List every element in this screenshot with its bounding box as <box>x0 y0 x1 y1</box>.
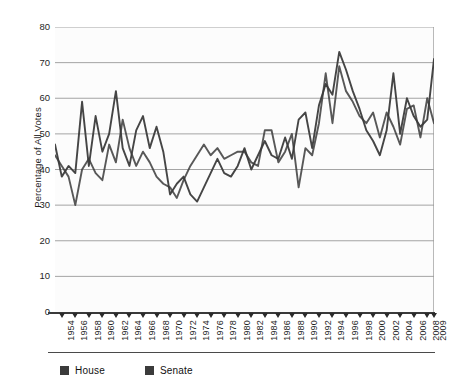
x-tick-mark <box>86 313 92 318</box>
x-tick-label: 1978 <box>228 320 238 341</box>
party-unity-votes-line-chart: Percentage of All Votes 0102030405060708… <box>0 0 455 385</box>
x-tick-mark <box>194 313 200 318</box>
x-tick-mark <box>248 313 254 318</box>
x-tick-label: 1976 <box>215 320 225 341</box>
plot-svg <box>55 27 434 312</box>
y-tick-label: 10 <box>28 272 50 282</box>
x-tick-label: 1972 <box>188 320 198 341</box>
chart-legend: HouseSenate <box>60 360 193 380</box>
legend-swatch-icon <box>145 366 154 375</box>
x-tick-label: 2002 <box>391 320 401 341</box>
x-tick-label: 1998 <box>364 320 374 341</box>
x-tick-label: 1980 <box>242 320 252 341</box>
x-tick-label: 1994 <box>336 320 346 341</box>
y-tick-label: 70 <box>28 58 50 68</box>
x-tick-label: 2000 <box>377 320 387 341</box>
x-tick-label: 1974 <box>201 320 211 341</box>
x-tick-label: 1962 <box>120 320 130 341</box>
legend-label: Senate <box>160 365 193 376</box>
x-tick-mark <box>431 313 437 318</box>
x-tick-label: 1996 <box>350 320 360 341</box>
x-tick-mark <box>126 313 132 318</box>
plot-area <box>55 27 434 312</box>
series-line-senate <box>55 66 434 205</box>
x-tick-mark <box>343 313 349 318</box>
x-tick-label: 1986 <box>282 320 292 341</box>
x-tick-label: 1990 <box>309 320 319 341</box>
x-tick-label: 1988 <box>296 320 306 341</box>
x-tick-label: 1958 <box>93 320 103 341</box>
x-tick-label: 1970 <box>174 320 184 341</box>
x-tick-label: 1954 <box>66 320 76 341</box>
x-tick-label: 1960 <box>106 320 116 341</box>
legend-item-house[interactable]: House <box>60 365 105 376</box>
y-tick-label: 60 <box>28 94 50 104</box>
x-tick-mark <box>289 313 295 318</box>
y-tick-label: 30 <box>28 200 50 210</box>
x-tick-mark <box>59 313 65 318</box>
x-tick-label: 1968 <box>161 320 171 341</box>
x-tick-label: 1992 <box>323 320 333 341</box>
y-tick-label: 40 <box>28 165 50 175</box>
x-tick-label: 2009 <box>438 320 448 341</box>
x-tick-mark <box>275 313 281 318</box>
y-tick-label: 20 <box>28 236 50 246</box>
x-tick-mark <box>370 313 376 318</box>
x-tick-label: 2006 <box>418 320 428 341</box>
x-tick-mark <box>316 313 322 318</box>
x-tick-mark <box>99 313 105 318</box>
x-tick-label: 1964 <box>133 320 143 341</box>
x-tick-mark <box>424 313 430 318</box>
x-tick-mark <box>302 313 308 318</box>
x-tick-mark <box>140 313 146 318</box>
x-tick-label: 1966 <box>147 320 157 341</box>
x-tick-mark <box>72 313 78 318</box>
x-tick-mark <box>181 313 187 318</box>
x-tick-mark <box>384 313 390 318</box>
legend-divider-rule <box>48 352 435 353</box>
x-tick-mark <box>262 313 268 318</box>
legend-item-senate[interactable]: Senate <box>145 365 193 376</box>
legend-label: House <box>75 365 105 376</box>
x-tick-mark <box>235 313 241 318</box>
x-tick-mark <box>357 313 363 318</box>
x-tick-mark <box>167 313 173 318</box>
x-tick-mark <box>397 313 403 318</box>
y-axis-tick-labels: 01020304050607080 <box>20 0 50 385</box>
x-tick-label: 1982 <box>255 320 265 341</box>
x-tick-mark <box>154 313 160 318</box>
x-tick-label: 2004 <box>404 320 414 341</box>
x-tick-mark <box>208 313 214 318</box>
x-tick-label: 1956 <box>79 320 89 341</box>
x-tick-mark <box>113 313 119 318</box>
y-tick-label: 80 <box>28 22 50 32</box>
x-tick-mark <box>411 313 417 318</box>
x-tick-mark <box>329 313 335 318</box>
legend-swatch-icon <box>60 366 69 375</box>
x-tick-label: 1984 <box>269 320 279 341</box>
y-tick-label: 0 <box>28 307 50 317</box>
y-tick-label: 50 <box>28 129 50 139</box>
x-tick-mark <box>221 313 227 318</box>
